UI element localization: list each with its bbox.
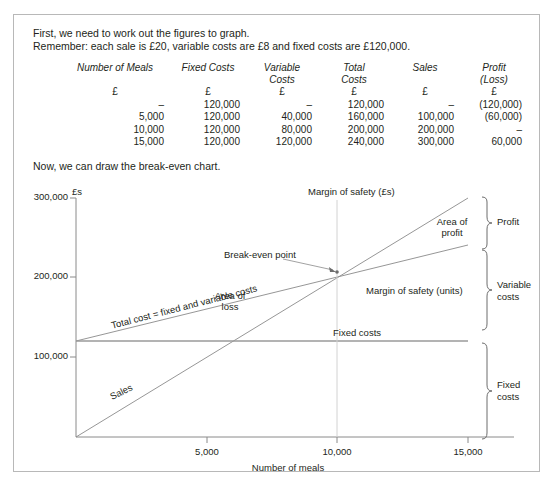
bracket-label-profit: Profit bbox=[497, 216, 519, 228]
column-header-profit-loss-line1: Profit bbox=[460, 62, 528, 74]
cell-meals: 15,000 bbox=[60, 136, 170, 149]
cell-meals: 5,000 bbox=[60, 111, 170, 124]
page-root: First, we need to work out the figures t… bbox=[0, 0, 555, 486]
table-row: 10,000 120,000 80,000 200,000 200,000 – bbox=[60, 124, 528, 137]
currency-symbol-5: £ bbox=[460, 86, 528, 99]
bracket-label-variable-costs-line2: costs bbox=[497, 291, 519, 303]
fixed-costs-line-label: Fixed costs bbox=[333, 327, 381, 338]
table-row: 15,000 120,000 120,000 240,000 300,000 6… bbox=[60, 136, 528, 149]
cell-sales: 200,000 bbox=[390, 124, 460, 137]
cell-profit-loss: (60,000) bbox=[460, 111, 528, 124]
table-row-currency: £ £ £ £ £ £ bbox=[60, 86, 528, 99]
column-header-variable-costs: Variable Costs bbox=[246, 62, 318, 86]
column-header-total-costs-line2: Costs bbox=[318, 74, 390, 86]
cell-sales: 100,000 bbox=[390, 111, 460, 124]
cell-meals: – bbox=[60, 99, 170, 112]
figures-table: Number of Meals Fixed Costs Variable Cos… bbox=[60, 62, 528, 149]
column-header-variable-costs-line1: Variable bbox=[246, 62, 318, 74]
column-header-profit-loss-line2: (Loss) bbox=[460, 74, 528, 86]
cell-variable-costs: 40,000 bbox=[246, 111, 318, 124]
column-header-total-costs-line1: Total bbox=[318, 62, 390, 74]
cell-total-costs: 160,000 bbox=[318, 111, 390, 124]
intro-line-2: Remember: each sale is £20, variable cos… bbox=[33, 40, 410, 53]
column-header-fixed-costs: Fixed Costs bbox=[170, 62, 246, 86]
x-tick-label-10000: 10,000 bbox=[307, 446, 367, 457]
column-header-profit-loss: Profit (Loss) bbox=[460, 62, 528, 86]
bracket-label-variable-costs-line1: Variable bbox=[497, 279, 531, 291]
intro-line-1: First, we need to work out the figures t… bbox=[33, 27, 250, 40]
cell-sales: – bbox=[390, 99, 460, 112]
column-header-sales: Sales bbox=[390, 62, 460, 86]
currency-symbol-1: £ bbox=[170, 86, 246, 99]
cell-fixed-costs: 120,000 bbox=[170, 136, 246, 149]
cell-total-costs: 120,000 bbox=[318, 99, 390, 112]
bracket-label-fixed-costs-line2: costs bbox=[497, 391, 519, 403]
cell-total-costs: 200,000 bbox=[318, 124, 390, 137]
x-tick-label-5000: 5,000 bbox=[177, 446, 237, 457]
x-axis-title: Number of meals bbox=[228, 462, 348, 473]
table-header-row: Number of Meals Fixed Costs Variable Cos… bbox=[60, 62, 528, 86]
cell-fixed-costs: 120,000 bbox=[170, 124, 246, 137]
column-header-total-costs: Total Costs bbox=[318, 62, 390, 86]
cell-profit-loss: – bbox=[460, 124, 528, 137]
table-row: 5,000 120,000 40,000 160,000 100,000 (60… bbox=[60, 111, 528, 124]
cell-sales: 300,000 bbox=[390, 136, 460, 149]
currency-symbol-4: £ bbox=[390, 86, 460, 99]
y-tick-label-200000: 200,000 bbox=[10, 270, 68, 281]
cell-meals: 10,000 bbox=[60, 124, 170, 137]
cell-fixed-costs: 120,000 bbox=[170, 111, 246, 124]
y-tick-label-100000: 100,000 bbox=[10, 350, 68, 361]
margin-of-safety-units-label: Margin of safety (units) bbox=[366, 285, 463, 296]
bracket-label-fixed-costs-line1: Fixed bbox=[497, 379, 520, 391]
x-tick-label-15000: 15,000 bbox=[438, 446, 498, 457]
table-row: – 120,000 – 120,000 – (120,000) bbox=[60, 99, 528, 112]
currency-symbol-0: £ bbox=[60, 86, 170, 99]
cell-profit-loss: (120,000) bbox=[460, 99, 528, 112]
area-of-profit-label-line1: Area of bbox=[422, 216, 482, 227]
cell-variable-costs: 80,000 bbox=[246, 124, 318, 137]
currency-symbol-3: £ bbox=[318, 86, 390, 99]
currency-symbol-2: £ bbox=[246, 86, 318, 99]
break-even-point-label: Break-even point bbox=[224, 249, 296, 260]
area-of-profit-label-line2: profit bbox=[422, 227, 482, 238]
margin-of-safety-value-label: Margin of safety (£s) bbox=[308, 186, 395, 197]
cell-variable-costs: – bbox=[246, 99, 318, 112]
intro-line-3: Now, we can draw the break-even chart. bbox=[33, 160, 220, 173]
cell-variable-costs: 120,000 bbox=[246, 136, 318, 149]
y-tick-label-300000: 300,000 bbox=[10, 191, 68, 202]
cell-total-costs: 240,000 bbox=[318, 136, 390, 149]
column-header-number-of-meals: Number of Meals bbox=[60, 62, 170, 86]
cell-fixed-costs: 120,000 bbox=[170, 99, 246, 112]
cell-profit-loss: 60,000 bbox=[460, 136, 528, 149]
column-header-variable-costs-line2: Costs bbox=[246, 74, 318, 86]
